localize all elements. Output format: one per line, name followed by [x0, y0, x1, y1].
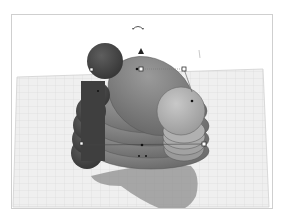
center-dot: [191, 100, 194, 103]
center-dot: [138, 155, 140, 157]
center-dot: [97, 90, 99, 92]
center-dot: [145, 155, 147, 157]
light-sphere-stack[interactable]: [157, 87, 205, 161]
scale-handle-back-left[interactable]: [90, 68, 93, 71]
ruler-mark: [199, 50, 200, 58]
3d-viewport[interactable]: [11, 14, 273, 209]
scale-handle-left[interactable]: [80, 142, 83, 145]
scale-handle-right[interactable]: [202, 142, 206, 146]
lift-cone-icon[interactable]: [138, 48, 144, 54]
scale-handle-top-right[interactable]: [182, 67, 186, 71]
rotate-arrow-icon[interactable]: [133, 27, 143, 30]
scene-canvas[interactable]: [11, 14, 273, 209]
center-dot: [141, 144, 144, 147]
center-dot: [136, 68, 139, 71]
scale-handle-top[interactable]: [139, 67, 143, 71]
